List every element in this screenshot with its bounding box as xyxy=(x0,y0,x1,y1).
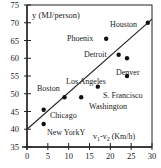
y-ticks: 354045505560657075 xyxy=(11,0,32,152)
x-axis-label: v1-v2 (Km/h) xyxy=(93,132,136,142)
label-phoenix: Phoenix xyxy=(67,34,93,43)
x-tick-label: 30 xyxy=(148,151,157,161)
data-point xyxy=(104,37,108,41)
label-boston: Boston xyxy=(37,84,60,93)
x-tick-label: 25 xyxy=(127,151,136,161)
y-tick-label: 45 xyxy=(11,107,20,117)
label-los-angeles: Los Angeles xyxy=(66,77,106,86)
data-point xyxy=(41,122,45,126)
label-chicago: Chicago xyxy=(50,111,77,120)
y-tick-label: 55 xyxy=(11,71,20,81)
x-ticks: 051015202530 xyxy=(25,143,156,161)
y-tick-label: 60 xyxy=(11,53,20,63)
label-denver: Denver xyxy=(116,68,140,77)
data-point xyxy=(125,56,129,60)
label-houston: Houston xyxy=(110,20,137,29)
label-detroit: Detroit xyxy=(84,50,107,59)
x-tick-label: 0 xyxy=(25,151,29,161)
x-tick-label: 5 xyxy=(46,151,50,161)
y-tick-label: 35 xyxy=(11,142,20,152)
y-axis-label: y (MJ/person) xyxy=(32,10,80,20)
label-washington: Washington xyxy=(89,102,127,111)
label-s-francisco: S. Francisco xyxy=(103,91,143,100)
y-tick-label: 65 xyxy=(11,36,20,46)
y-tick-label: 40 xyxy=(11,124,20,134)
scatter-chart: 354045505560657075 051015202530 y (MJ/pe… xyxy=(0,0,161,168)
data-point xyxy=(116,53,120,57)
x-tick-label: 20 xyxy=(106,151,115,161)
data-point xyxy=(79,95,83,99)
x-tick-label: 10 xyxy=(64,151,73,161)
label-new-york: New YorkY xyxy=(47,128,85,137)
y-tick-label: 70 xyxy=(11,18,20,28)
data-point xyxy=(146,21,150,25)
x-tick-label: 15 xyxy=(85,151,94,161)
y-tick-label: 50 xyxy=(11,89,20,99)
data-point xyxy=(62,95,66,99)
data-point xyxy=(41,108,45,112)
y-tick-label: 75 xyxy=(11,0,20,10)
